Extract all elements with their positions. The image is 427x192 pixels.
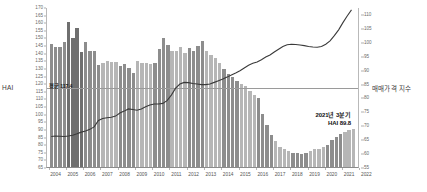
- y-axis-left-tick: 140: [35, 51, 43, 56]
- x-axis-tickmark: [221, 168, 222, 170]
- x-axis-tickmark: [256, 168, 257, 170]
- y-axis-right-tickmark: [361, 154, 364, 155]
- chart-root: 1701651601551501451401351301251201151101…: [0, 0, 427, 192]
- y-axis-right-tick: 65: [364, 138, 369, 143]
- x-axis-tick-label: 2006: [85, 172, 96, 177]
- callout-line-1: 2021년 3분기: [229, 111, 351, 119]
- y-axis-left-tick: 115: [36, 90, 43, 95]
- y-axis-right-tickmark: [361, 14, 364, 15]
- y-axis-right-tickmark: [361, 56, 364, 57]
- y-axis-left-tick: 145: [35, 44, 43, 49]
- x-axis: 2004200520062007200820092010201120122013…: [46, 170, 359, 186]
- x-axis-tick-label: 2004: [50, 172, 61, 177]
- x-axis-tick-label: 2008: [119, 172, 130, 177]
- y-axis-right-tickmark: [361, 28, 364, 29]
- x-axis-tickmark: [342, 168, 343, 170]
- y-axis-left-tick: 110: [36, 97, 43, 102]
- x-axis-tick-label: 2018: [292, 172, 303, 177]
- x-axis-tick-label: 2015: [240, 172, 251, 177]
- x-axis-tick-label: 2013: [206, 172, 217, 177]
- y-axis-left-tick: 150: [35, 36, 43, 41]
- y-axis-right-tickmark: [361, 126, 364, 127]
- y-axis-left-tick: 155: [35, 29, 43, 34]
- y-axis-left-tick: 75: [38, 150, 43, 155]
- y-axis-left-tick: 165: [35, 13, 43, 18]
- y-axis-right-tick: 95: [364, 54, 369, 59]
- x-axis-tickmark: [152, 168, 153, 170]
- y-axis-right-tick: 110: [364, 13, 371, 18]
- x-axis-tick-label: 2020: [326, 172, 337, 177]
- x-axis-tick-label: 2016: [257, 172, 268, 177]
- y-axis-right-tick: 60: [364, 152, 369, 157]
- x-axis-tick-label: 2021: [344, 172, 355, 177]
- x-axis-tickmark: [49, 168, 50, 170]
- x-axis-tickmark: [204, 168, 205, 170]
- y-axis-right-tick: 85: [364, 82, 369, 87]
- x-axis-tickmark: [273, 168, 274, 170]
- y-axis-left-tick: 80: [38, 143, 43, 148]
- line-series-price-index: [47, 8, 358, 167]
- x-axis-tick-label: 2012: [188, 172, 199, 177]
- y-axis-left-tick: 105: [35, 105, 43, 110]
- y-axis-left: 1701651601551501451401351301251201151101…: [17, 8, 43, 168]
- y-axis-left-tick: 65: [38, 166, 43, 171]
- y-axis-left-tick: 95: [38, 120, 43, 125]
- y-axis-left-tick: 135: [35, 59, 43, 64]
- y-axis-left-title: HAI: [2, 84, 13, 91]
- x-axis-tickmark: [308, 168, 309, 170]
- y-axis-left-tick: 130: [35, 67, 43, 72]
- x-axis-tickmark: [83, 168, 84, 170]
- y-axis-right-tickmark: [361, 42, 364, 43]
- y-axis-left-tick: 70: [38, 158, 43, 163]
- x-axis-tickmark: [66, 168, 67, 170]
- x-axis-tick-label: 2014: [223, 172, 234, 177]
- y-axis-right-tick: 80: [364, 96, 369, 101]
- plot-area: 평균 117.4 2021년 3분기 HAI 89.8: [46, 8, 359, 168]
- x-axis-tickmark: [135, 168, 136, 170]
- y-axis-left-tick: 120: [35, 82, 43, 87]
- y-axis-right-tickmark: [361, 140, 364, 141]
- x-axis-tickmark: [290, 168, 291, 170]
- y-axis-right-tickmark: [361, 70, 364, 71]
- x-axis-tick-label: 2010: [154, 172, 165, 177]
- x-axis-tick-label: 2022: [361, 172, 372, 177]
- y-axis-left-tick: 170: [35, 6, 43, 11]
- y-axis-right-tickmark: [361, 84, 364, 85]
- y-axis-right-tick: 75: [364, 110, 369, 115]
- y-axis-right-tick: 70: [364, 124, 369, 129]
- x-axis-tickmark: [325, 168, 326, 170]
- y-axis-right-tick: 90: [364, 68, 369, 73]
- y-axis-left-tick: 100: [35, 112, 43, 117]
- y-axis-right-tick: 100: [364, 40, 372, 45]
- x-axis-tick-label: 2017: [275, 172, 286, 177]
- x-axis-tickmark: [187, 168, 188, 170]
- x-axis-tickmark: [239, 168, 240, 170]
- x-axis-tickmark: [169, 168, 170, 170]
- callout-line-2: HAI 89.8: [229, 119, 351, 127]
- x-axis-tickmark: [118, 168, 119, 170]
- y-axis-right-tick: 55: [364, 166, 369, 171]
- y-axis-right-tickmark: [361, 168, 364, 169]
- x-axis-tick-label: 2007: [102, 172, 113, 177]
- latest-point-callout: 2021년 3분기 HAI 89.8: [229, 111, 351, 127]
- x-axis-tick-label: 2019: [309, 172, 320, 177]
- x-axis-tick-label: 2009: [136, 172, 147, 177]
- y-axis-left-tick: 125: [35, 74, 43, 79]
- x-axis-tick-label: 2005: [67, 172, 78, 177]
- y-axis-left-tick: 90: [38, 128, 43, 133]
- y-axis-right-tickmark: [361, 112, 364, 113]
- x-axis-tickmark: [100, 168, 101, 170]
- y-axis-right-tickmark: [361, 98, 364, 99]
- y-axis-right-tick: 105: [364, 27, 372, 32]
- x-axis-tickmark: [359, 168, 360, 170]
- y-axis-right-title: 매매가격 지수: [372, 83, 411, 93]
- x-axis-tick-label: 2011: [171, 172, 181, 177]
- y-axis-left-tick: 160: [35, 21, 43, 26]
- y-axis-left-tick: 85: [38, 135, 43, 140]
